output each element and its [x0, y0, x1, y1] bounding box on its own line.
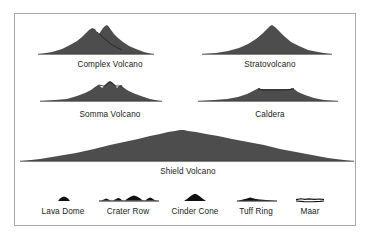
somma-volcano-label: Somma Volcano: [80, 110, 141, 119]
tuff-ring-shape: [237, 198, 277, 201]
volcano-diagram-canvas: Complex Volcano Stratovolcano Somma Volc…: [0, 0, 372, 239]
cinder-cone-label: Cinder Cone: [171, 207, 218, 216]
complex-volcano-silhouette: [40, 25, 152, 54]
caldera-label: Caldera: [255, 110, 285, 119]
complex-volcano-shape: [38, 25, 154, 54]
maar-label: Maar: [300, 207, 319, 216]
lava-dome-label: Lava Dome: [42, 207, 85, 216]
shield-volcano-label: Shield Volcano: [160, 167, 216, 176]
tuff-ring-silhouette: [238, 198, 276, 201]
maar-rim-line: [296, 199, 324, 200]
shield-volcano-shape: [20, 130, 354, 161]
shield-volcano-silhouette: [22, 130, 352, 161]
maar-shape: [296, 199, 324, 202]
volcano-profiles-figure: Complex Volcano Stratovolcano Somma Volc…: [0, 0, 372, 239]
crater-row-label: Crater Row: [107, 207, 149, 216]
cinder-cone-silhouette: [184, 194, 206, 201]
cinder-cone-shape: [184, 194, 206, 201]
complex-volcano-label: Complex Volcano: [77, 60, 143, 69]
crater-row-silhouette: [101, 196, 157, 201]
stratovolcano-shape: [202, 25, 332, 54]
stratovolcano-label: Stratovolcano: [244, 60, 296, 69]
somma-volcano-silhouette: [42, 81, 160, 101]
maar-crater-floor-line: [296, 201, 324, 202]
lava-dome-shape: [58, 197, 70, 201]
lava-dome-silhouette: [58, 197, 70, 201]
tuff-ring-label: Tuff Ring: [239, 207, 273, 216]
stratovolcano-silhouette: [204, 25, 330, 54]
crater-row-shape: [99, 196, 159, 201]
somma-volcano-shape: [40, 81, 162, 101]
caldera-shape: [198, 88, 338, 101]
